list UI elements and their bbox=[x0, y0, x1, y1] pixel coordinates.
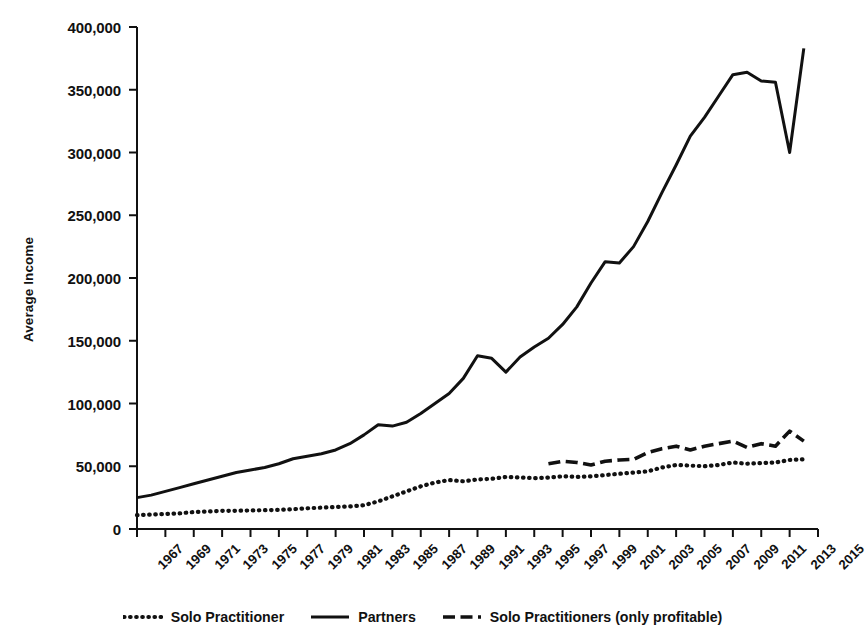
dotted-line-key bbox=[123, 610, 163, 624]
legend-label: Solo Practitioner bbox=[171, 609, 285, 625]
dashed-line-key bbox=[442, 610, 482, 624]
legend-item[interactable]: Partners bbox=[310, 609, 416, 625]
legend-label: Partners bbox=[358, 609, 416, 625]
chart-legend: Solo PractitionerPartnersSolo Practition… bbox=[0, 604, 845, 630]
series-line bbox=[137, 459, 804, 515]
data-series bbox=[137, 48, 804, 515]
series-line bbox=[548, 431, 803, 465]
legend-item[interactable]: Solo Practitioner bbox=[123, 609, 285, 625]
legend-item[interactable]: Solo Practitioners (only profitable) bbox=[442, 609, 723, 625]
legend-label: Solo Practitioners (only profitable) bbox=[490, 609, 723, 625]
series-line bbox=[137, 48, 804, 497]
solid-line-key bbox=[310, 610, 350, 624]
